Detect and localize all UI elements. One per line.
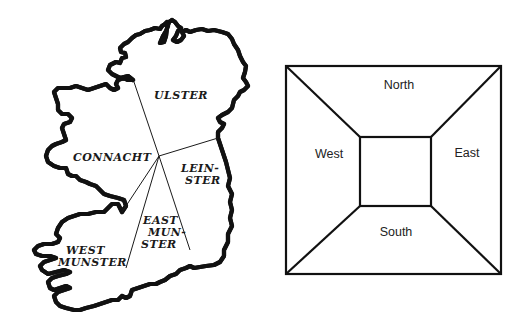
inner-square — [360, 137, 431, 206]
figure-canvas: ULSTER CONNACHT LEIN- STER EAST MUN- STE… — [0, 0, 528, 317]
label-south: South — [380, 225, 413, 239]
label-west: West — [315, 147, 344, 161]
direction-diagram: North West East South — [286, 66, 501, 274]
label-east-munster-line3: STER — [141, 238, 177, 251]
label-west-munster-line2: MUNSTER — [57, 256, 127, 269]
diagonal-bottom-left — [286, 206, 360, 274]
ireland-map: ULSTER CONNACHT LEIN- STER EAST MUN- STE… — [34, 20, 248, 310]
label-ulster: ULSTER — [154, 89, 208, 102]
diagonal-top-right — [431, 66, 501, 137]
label-north: North — [384, 78, 415, 92]
label-connacht: CONNACHT — [73, 151, 152, 164]
label-leinster-line2: STER — [185, 174, 221, 187]
diagonal-top-left — [286, 66, 360, 137]
diagonal-bottom-right — [431, 206, 501, 274]
label-east: East — [454, 146, 480, 160]
